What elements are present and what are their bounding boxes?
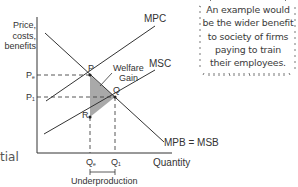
p1-sub: 1: [32, 96, 35, 102]
q1-main: Q: [111, 157, 118, 167]
partial-text: tial: [0, 150, 19, 164]
p1-label: P1: [26, 92, 35, 104]
callout-line: to society of firms: [200, 30, 296, 43]
underproduction-label: Underproduction: [71, 176, 138, 186]
point-q-dot: [113, 95, 116, 98]
q1-label: Q1: [111, 157, 121, 169]
welfare-gain-area: [90, 75, 115, 117]
qe-sub: e: [93, 161, 96, 167]
point-p-label: P: [88, 63, 94, 73]
x-axis-label: Quantity: [153, 158, 190, 168]
pe-sub: e: [32, 74, 35, 80]
mpc-label: MPC: [144, 14, 166, 24]
welfare-gain-pointer: [100, 73, 112, 86]
qe-label: Qe: [86, 157, 96, 169]
q1-sub: 1: [118, 161, 121, 167]
callout-line: An example would: [200, 3, 296, 16]
pe-label: Pe: [26, 70, 35, 82]
mpb-msb-label: MPB = MSB: [164, 138, 219, 148]
point-q-label: Q: [113, 85, 120, 95]
y-axis-label: Price, costs, benefits: [2, 20, 36, 52]
callout-line: their employees.: [200, 56, 296, 69]
callout-line: be the wider benefit: [200, 16, 296, 29]
callout-line: paying to train: [200, 43, 296, 56]
callout-note: An example would be the wider benefit to…: [200, 3, 296, 69]
mpb-msb-curve: [45, 33, 164, 142]
qe-main: Q: [86, 157, 93, 167]
msc-label: MSC: [149, 59, 171, 69]
welfare-gain-label: Welfare Gain: [113, 63, 144, 83]
point-p-dot: [88, 73, 91, 76]
point-r-label: R: [82, 110, 89, 120]
